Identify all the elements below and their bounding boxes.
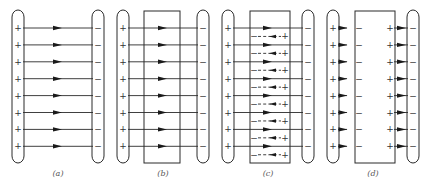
- arrow-right-icon: [158, 43, 167, 47]
- plus-sign: +: [119, 23, 127, 33]
- plus-sign: +: [14, 124, 22, 134]
- minus-sign: −: [94, 23, 102, 33]
- minus-sign: −: [409, 40, 417, 50]
- arrow-right-icon: [397, 110, 406, 114]
- arrow-left-icon: [269, 102, 276, 106]
- arrow-left-icon: [269, 52, 276, 56]
- panel-b: +−+−+−+−+−+−+−+−(b): [117, 10, 209, 178]
- plus-sign: +: [386, 141, 394, 151]
- minus-sign: −: [199, 40, 207, 50]
- minus-sign: −: [250, 82, 258, 92]
- figure-canvas: +−+−+−+−+−+−+−+−(a)+−+−+−+−+−+−+−+−(b)+−…: [0, 0, 432, 189]
- plus-sign: +: [14, 57, 22, 67]
- plus-sign: +: [224, 108, 232, 118]
- arrow-left-icon: [269, 153, 276, 157]
- minus-sign: −: [94, 74, 102, 84]
- plus-sign: +: [329, 108, 337, 118]
- arrow-right-icon: [158, 110, 167, 114]
- plus-sign: +: [119, 74, 127, 84]
- arrow-right-icon: [158, 93, 167, 97]
- minus-sign: −: [199, 74, 207, 84]
- minus-sign: −: [94, 91, 102, 101]
- minus-sign: −: [250, 116, 258, 126]
- plus-sign: +: [224, 23, 232, 33]
- arrow-right-icon: [263, 144, 272, 148]
- plus-sign: +: [329, 74, 337, 84]
- arrow-right-icon: [339, 43, 348, 47]
- plus-sign: +: [14, 40, 22, 50]
- plus-sign: +: [119, 124, 127, 134]
- plus-sign: +: [119, 141, 127, 151]
- plus-sign: +: [329, 91, 337, 101]
- arrow-right-icon: [339, 26, 348, 30]
- minus-sign: −: [304, 91, 312, 101]
- arrow-right-icon: [397, 93, 406, 97]
- plus-sign: +: [14, 108, 22, 118]
- minus-sign: −: [199, 124, 207, 134]
- plus-sign: +: [14, 91, 22, 101]
- minus-sign: −: [304, 124, 312, 134]
- arrow-right-icon: [263, 110, 272, 114]
- minus-sign: −: [409, 57, 417, 67]
- plus-sign: +: [281, 150, 289, 160]
- minus-sign: −: [304, 40, 312, 50]
- minus-sign: −: [94, 124, 102, 134]
- arrow-right-icon: [53, 144, 62, 148]
- minus-sign: −: [250, 31, 258, 41]
- plus-sign: +: [329, 124, 337, 134]
- arrow-right-icon: [263, 127, 272, 131]
- capacitor-dielectric-figure: +−+−+−+−+−+−+−+−(a)+−+−+−+−+−+−+−+−(b)+−…: [0, 0, 432, 189]
- plus-sign: +: [329, 57, 337, 67]
- plus-sign: +: [281, 31, 289, 41]
- arrow-left-icon: [269, 85, 276, 89]
- plus-sign: +: [14, 141, 22, 151]
- minus-sign: −: [304, 57, 312, 67]
- plus-sign: +: [386, 124, 394, 134]
- minus-sign: −: [355, 40, 363, 50]
- arrow-right-icon: [53, 60, 62, 64]
- minus-sign: −: [250, 65, 258, 75]
- arrow-left-icon: [269, 136, 276, 140]
- arrow-right-icon: [53, 93, 62, 97]
- plus-sign: +: [281, 133, 289, 143]
- arrow-left-icon: [269, 119, 276, 123]
- arrow-right-icon: [263, 43, 272, 47]
- arrow-right-icon: [339, 144, 348, 148]
- minus-sign: −: [199, 141, 207, 151]
- plus-sign: +: [329, 23, 337, 33]
- arrow-right-icon: [339, 60, 348, 64]
- plus-sign: +: [329, 141, 337, 151]
- panel-caption: (b): [157, 169, 168, 178]
- arrow-right-icon: [263, 26, 272, 30]
- arrow-right-icon: [397, 43, 406, 47]
- panel-caption: (d): [367, 169, 378, 178]
- arrow-right-icon: [397, 60, 406, 64]
- plus-sign: +: [386, 108, 394, 118]
- minus-sign: −: [250, 133, 258, 143]
- minus-sign: −: [250, 99, 258, 109]
- minus-sign: −: [199, 108, 207, 118]
- arrow-right-icon: [158, 144, 167, 148]
- dielectric-slab: [144, 11, 180, 163]
- plus-sign: +: [386, 23, 394, 33]
- minus-sign: −: [94, 141, 102, 151]
- minus-sign: −: [409, 108, 417, 118]
- plus-sign: +: [386, 91, 394, 101]
- arrow-right-icon: [397, 144, 406, 148]
- minus-sign: −: [409, 141, 417, 151]
- plus-sign: +: [386, 74, 394, 84]
- arrow-right-icon: [263, 77, 272, 81]
- plus-sign: +: [281, 65, 289, 75]
- plus-sign: +: [281, 82, 289, 92]
- minus-sign: −: [304, 108, 312, 118]
- minus-sign: −: [199, 57, 207, 67]
- panel-caption: (c): [263, 169, 274, 178]
- minus-sign: −: [304, 23, 312, 33]
- minus-sign: −: [94, 57, 102, 67]
- minus-sign: −: [409, 23, 417, 33]
- minus-sign: −: [409, 124, 417, 134]
- arrow-right-icon: [339, 77, 348, 81]
- plus-sign: +: [224, 57, 232, 67]
- plus-sign: +: [119, 57, 127, 67]
- minus-sign: −: [250, 48, 258, 58]
